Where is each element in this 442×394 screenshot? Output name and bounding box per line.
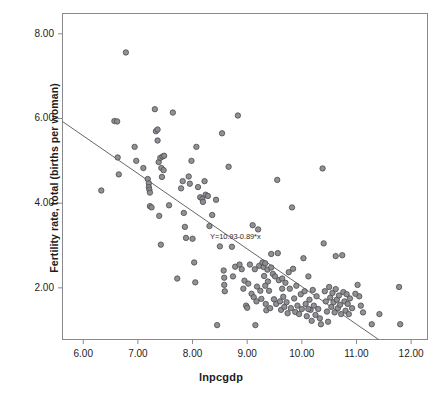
x-axis-title: lnpcgdp (0, 371, 442, 384)
x-axis-ticks (83, 340, 411, 345)
x-tick-label: 8.00 (167, 348, 219, 359)
x-tick-label: 12.00 (385, 348, 437, 359)
y-tick-label: 4.00 (14, 197, 54, 208)
scatter-plot-figure: lnpcgdp Fertility rate, total (births pe… (0, 0, 442, 394)
y-tick-label: 8.00 (14, 28, 54, 39)
y-tick-label: 2.00 (14, 282, 54, 293)
regression-equation-label: Y=10.93-0.89*x (210, 232, 261, 241)
x-tick-label: 11.00 (330, 348, 382, 359)
data-points (99, 50, 403, 328)
x-tick-label: 6.00 (57, 348, 109, 359)
plot-canvas (0, 0, 442, 394)
x-tick-label: 9.00 (221, 348, 273, 359)
x-tick-label: 7.00 (112, 348, 164, 359)
y-tick-label: 6.00 (14, 112, 54, 123)
x-tick-label: 10.00 (276, 348, 328, 359)
